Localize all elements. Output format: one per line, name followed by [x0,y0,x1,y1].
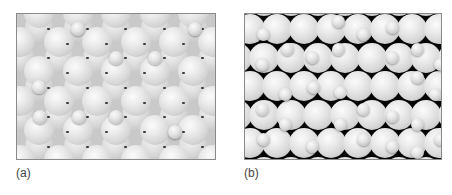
small-sphere [257,28,270,41]
large-sphere [316,128,346,158]
small-sphere [256,103,269,116]
small-sphere [306,51,319,64]
large-sphere [44,86,74,116]
small-sphere [281,43,294,56]
large-sphere [82,27,112,57]
interstitial-gap [105,102,108,104]
interstitial-gap [105,72,108,74]
small-sphere [411,146,424,159]
interstitial-gap [163,87,166,89]
large-sphere [44,27,74,57]
small-sphere [306,140,319,153]
large-sphere [438,100,443,130]
interstitial-gap [86,146,89,148]
small-sphere [411,71,424,84]
small-sphere [332,15,345,28]
interstitial-gap [86,87,89,89]
interstitial-gap [163,146,166,148]
interstitial-gap [143,102,146,104]
large-sphere [397,14,427,44]
interstitial-gap [66,43,69,45]
interstitial-gap [143,131,146,133]
small-sphere [434,133,443,146]
small-sphere [357,103,370,116]
large-sphere [424,14,442,44]
small-sphere [256,58,269,71]
small-sphere [32,80,46,94]
small-sphere [434,58,443,71]
interstitial-gap [105,43,108,45]
interstitial-gap [163,116,166,118]
panel-a-close-packed-layer [16,13,216,160]
interstitial-gap [182,131,185,133]
large-sphere [121,86,151,116]
large-sphere [357,43,387,73]
panel-a-label: (a) [16,166,31,180]
small-sphere [109,110,123,124]
interstitial-gap [124,146,127,148]
small-sphere [279,88,292,101]
interstitial-gap [182,72,185,74]
small-sphere [357,133,370,146]
large-sphere [370,71,400,101]
small-sphere [357,28,370,41]
small-sphere [334,118,347,131]
interstitial-gap [124,87,127,89]
interstitial-gap [143,43,146,45]
small-sphere [148,51,162,65]
interstitial-gap [47,146,50,148]
interstitial-gap [47,87,50,89]
small-sphere [386,51,399,64]
small-sphere [386,110,399,123]
small-sphere [72,110,86,124]
small-sphere [109,51,123,65]
large-sphere [82,86,112,116]
interstitial-gap [201,146,204,148]
small-sphere [386,140,399,153]
small-sphere [168,125,182,139]
panel-b-label: (b) [244,166,259,180]
interstitial-gap [201,87,204,89]
large-sphere [159,86,189,116]
small-sphere [257,133,270,146]
small-sphere [279,118,292,131]
interstitial-gap [163,28,166,30]
large-sphere [343,71,373,101]
large-sphere [159,27,189,57]
large-sphere [303,100,333,130]
interstitial-gap [47,28,50,30]
large-sphere [289,14,319,44]
interstitial-gap [124,28,127,30]
small-sphere [411,43,424,56]
small-sphere [33,110,47,124]
interstitial-gap [182,102,185,104]
interstitial-gap [182,43,185,45]
small-sphere [307,81,320,94]
small-sphere [334,86,347,99]
interstitial-gap [86,28,89,30]
small-sphere [411,118,424,131]
small-sphere [188,22,202,36]
small-sphere [71,22,85,36]
small-sphere [386,21,399,34]
interstitial-gap [66,131,69,133]
panel-b-open-packed-layer [244,13,442,160]
small-sphere [332,43,345,56]
interstitial-gap [105,131,108,133]
interstitial-gap [66,102,69,104]
large-sphere [121,27,151,57]
small-sphere [429,88,442,101]
